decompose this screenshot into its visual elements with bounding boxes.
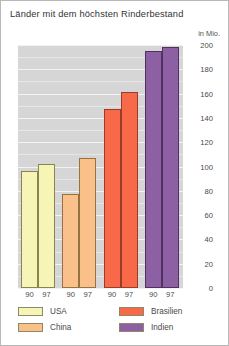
y-tick-label: 120 (187, 138, 213, 147)
x-tick-group-usa: 9097 (19, 290, 57, 302)
y-tick-label: 180 (187, 65, 213, 74)
y-tick-label: 80 (187, 186, 213, 195)
x-tick-group-indien: 9097 (143, 290, 181, 302)
bar-usa-90 (21, 171, 38, 288)
bar-brasilien-90 (104, 109, 121, 288)
x-tick-label: 97 (79, 290, 96, 299)
y-tick-label: 0 (187, 284, 213, 293)
bar-group-china (60, 45, 98, 288)
chart-figure: Länder mit dem höchsten Rinderbestand in… (0, 0, 229, 346)
chart-title: Länder mit dem höchsten Rinderbestand (10, 9, 222, 19)
legend-swatch-icon (18, 323, 43, 332)
bar-group-usa (19, 45, 57, 288)
y-tick-label: 40 (187, 235, 213, 244)
x-tick-label: 90 (21, 290, 38, 299)
y-tick-label: 140 (187, 113, 213, 122)
legend-label: Brasilien (151, 307, 182, 316)
bar-china-90 (62, 194, 79, 288)
legend-swatch-icon (119, 307, 144, 316)
x-tick-label: 90 (104, 290, 121, 299)
bar-group-indien (143, 45, 181, 288)
legend-label: China (50, 323, 71, 332)
y-tick-label: 100 (187, 162, 213, 171)
y-tick-label: 160 (187, 89, 213, 98)
x-tick-label: 97 (121, 290, 138, 299)
plot-area (18, 45, 183, 288)
x-tick-group-china: 9097 (60, 290, 98, 302)
bar-indien-90 (145, 51, 162, 288)
bar-brasilien-97 (121, 92, 138, 288)
legend-label: Indien (151, 323, 173, 332)
legend-label: USA (50, 307, 67, 316)
y-tick-label: 20 (187, 259, 213, 268)
x-tick-label: 97 (162, 290, 179, 299)
chart-legend: USAChinaBrasilienIndien (18, 306, 213, 338)
legend-item-indien: Indien (119, 322, 173, 333)
y-tick-label: 200 (187, 41, 213, 50)
legend-item-brasilien: Brasilien (119, 306, 182, 317)
y-axis-unit-label: in Mio. (198, 29, 220, 38)
x-axis: 9097909790979097 (18, 290, 183, 302)
y-axis: 200180160140120100806040200 (187, 45, 223, 288)
x-tick-label: 97 (38, 290, 55, 299)
legend-swatch-icon (119, 323, 144, 332)
gridline (18, 288, 183, 289)
bar-group-brasilien (102, 45, 140, 288)
bar-series-container (18, 45, 183, 288)
bar-indien-97 (162, 47, 179, 288)
bar-china-97 (79, 158, 96, 288)
y-tick-label: 60 (187, 211, 213, 220)
x-tick-label: 90 (62, 290, 79, 299)
x-tick-group-brasilien: 9097 (102, 290, 140, 302)
x-tick-label: 90 (145, 290, 162, 299)
bar-usa-97 (38, 164, 55, 288)
legend-item-china: China (18, 322, 71, 333)
legend-item-usa: USA (18, 306, 67, 317)
legend-swatch-icon (18, 307, 43, 316)
